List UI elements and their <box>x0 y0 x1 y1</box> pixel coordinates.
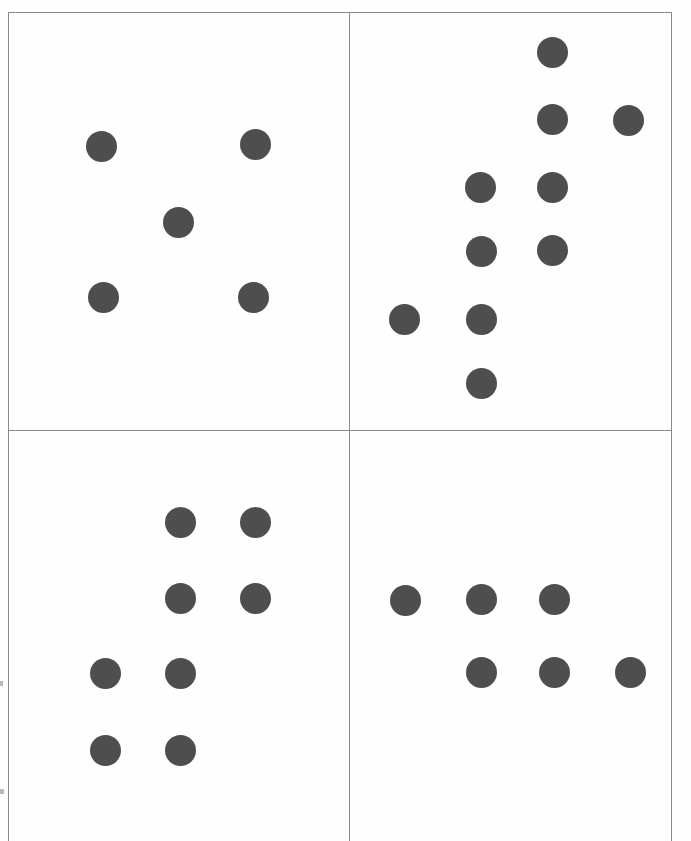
dot-marker <box>240 507 271 538</box>
dot-marker <box>537 37 568 68</box>
dot-marker <box>240 129 271 160</box>
dot-marker <box>537 235 568 266</box>
dot-marker <box>90 658 121 689</box>
panel-top-right <box>349 12 671 430</box>
scan-speckle <box>0 789 4 794</box>
dot-marker <box>88 282 119 313</box>
dot-marker <box>466 368 497 399</box>
dot-marker <box>165 658 196 689</box>
dot-marker <box>165 735 196 766</box>
dot-marker <box>390 585 421 616</box>
dot-marker <box>238 282 269 313</box>
dot-marker <box>165 583 196 614</box>
dot-marker <box>466 304 497 335</box>
dot-marker <box>466 657 497 688</box>
dot-marker <box>615 657 646 688</box>
panel-bottom-left <box>8 430 349 841</box>
dot-marker <box>465 172 496 203</box>
dot-marker <box>539 657 570 688</box>
dot-marker <box>537 172 568 203</box>
panel-bottom-right <box>349 430 671 841</box>
dot-marker <box>86 131 117 162</box>
dot-marker <box>537 104 568 135</box>
dot-marker <box>165 507 196 538</box>
dot-marker <box>163 207 194 238</box>
dot-marker <box>466 584 497 615</box>
frame-right-rule <box>671 12 672 841</box>
dot-pattern-sheet <box>0 0 691 841</box>
dot-marker <box>466 236 497 267</box>
dot-marker <box>539 584 570 615</box>
panel-top-left <box>8 12 349 430</box>
dot-marker <box>613 105 644 136</box>
dot-marker <box>90 735 121 766</box>
dot-marker <box>389 304 420 335</box>
scan-speckle <box>0 681 3 686</box>
dot-marker <box>240 583 271 614</box>
